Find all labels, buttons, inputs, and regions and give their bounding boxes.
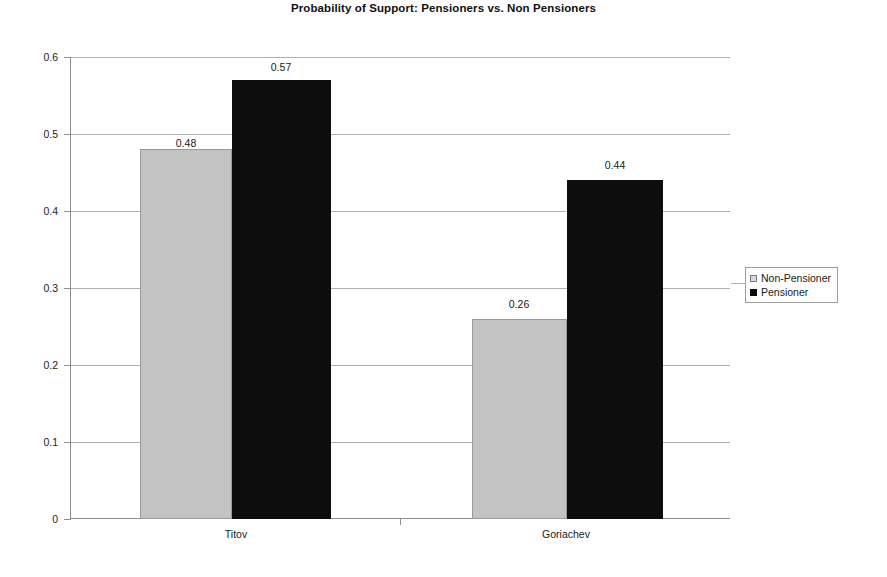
y-tick-label-1: 0.5 [12,128,58,140]
plot-area [71,57,730,519]
y-tick-label-4: 0.2 [12,359,58,371]
x-tick-mark-divider [400,519,401,525]
legend-swatch-dark-square-icon [750,289,757,296]
chart-legend[interactable]: Non-Pensioner Pensioner [745,267,838,303]
legend-connector-line [731,283,745,284]
legend-item-pensioner[interactable]: Pensioner [750,285,831,299]
legend-label-pensioner: Pensioner [761,285,808,299]
gridline-0.6 [71,57,730,58]
bar-titov-pensioner[interactable] [232,80,331,519]
y-tick-label-5: 0.1 [12,436,58,448]
x-category-label-goriachev: Goriachev [542,528,590,540]
chart-container: Probability of Support: Pensioners vs. N… [0,0,887,577]
y-tick-label-6: 0 [12,513,58,525]
y-tick-label-2: 0.4 [12,205,58,217]
legend-swatch-light-square-icon [750,275,757,282]
bar-titov-non-pensioner[interactable] [140,149,232,519]
bar-value-label-goriachev-non-pensioner: 0.26 [509,298,529,310]
chart-title: Probability of Support: Pensioners vs. N… [0,2,887,14]
gridline-0.5 [71,134,730,135]
bar-goriachev-pensioner[interactable] [567,180,663,519]
x-category-label-titov: Titov [225,528,247,540]
bar-goriachev-non-pensioner[interactable] [472,319,567,519]
legend-label-non-pensioner: Non-Pensioner [761,271,831,285]
legend-item-non-pensioner[interactable]: Non-Pensioner [750,271,831,285]
bar-value-label-goriachev-pensioner: 0.44 [605,159,625,171]
y-tick-label-3: 0.3 [12,282,58,294]
bar-value-label-titov-non-pensioner: 0.48 [176,137,196,149]
bar-value-label-titov-pensioner: 0.57 [271,61,291,73]
y-axis-tick-labels: 0.6 0.5 0.4 0.3 0.2 0.1 0 [0,0,58,577]
y-tick-label-0: 0.6 [12,51,58,63]
